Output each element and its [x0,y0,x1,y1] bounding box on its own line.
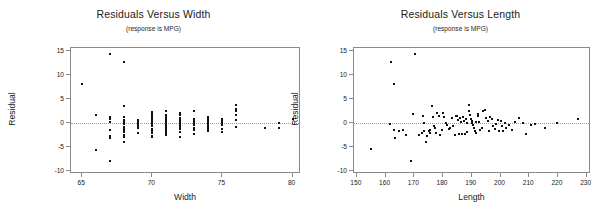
data-point [418,134,420,136]
data-point [429,132,431,134]
data-point [370,148,372,150]
data-point [492,125,494,127]
data-point [264,127,266,129]
x-axis-tick-label: 75 [218,179,225,186]
data-point [508,124,510,126]
data-point [410,160,412,162]
data-point [235,126,237,128]
y-axis-tick [66,50,70,51]
data-point [458,133,460,135]
x-axis-tick [81,173,82,177]
data-point [488,130,490,132]
data-point [423,130,425,132]
data-point [137,132,139,134]
chart-subtitle: (response is MPG) [0,25,307,32]
data-point [423,122,425,124]
data-point [465,118,467,120]
y-axis-tick-label: 5 [42,94,64,101]
y-axis-tick [349,170,353,171]
residual-plots-figure: Residuals Versus Width (response is MPG)… [0,0,614,218]
data-point [393,129,395,131]
data-point [443,116,445,118]
data-point [468,104,470,106]
data-point [466,122,468,124]
y-axis-tick [66,74,70,75]
y-axis-tick [349,50,353,51]
data-point [390,61,392,63]
data-point [278,127,280,129]
x-axis-tick-label: 190 [465,179,476,186]
data-point [432,116,434,118]
data-point [436,112,438,114]
x-axis-tick-label: 180 [437,179,448,186]
x-axis-tick-label: 150 [350,179,361,186]
y-axis-tick-label: 15 [325,46,347,53]
y-axis-tick [349,98,353,99]
data-point [221,131,223,133]
data-point [438,115,440,117]
data-point [109,137,111,139]
data-point [221,128,223,130]
plot-area [70,47,300,173]
data-point [402,129,404,131]
data-point [497,119,499,121]
data-point [462,116,464,118]
plot-area [353,47,590,173]
data-point [525,133,527,135]
data-point [165,134,167,136]
data-point [494,128,496,130]
y-axis-tick [349,146,353,147]
data-point [449,127,451,129]
data-point [235,119,237,121]
x-axis-tick [221,173,222,177]
data-point [534,123,536,125]
data-point [530,124,532,126]
data-point [491,118,493,120]
data-point [504,122,506,124]
data-point [477,115,479,117]
data-point [459,117,461,119]
y-axis-tick [66,122,70,123]
chart-panel-residuals-versus-length: Residuals Versus Length (response is MPG… [307,0,614,218]
data-point [405,134,407,136]
zero-reference-line [71,123,299,124]
data-point [518,117,520,119]
data-point [475,132,477,134]
data-point [469,114,471,116]
data-point [109,129,111,131]
x-axis-tick-label: 70 [148,179,155,186]
x-axis-tick-label: 210 [523,179,534,186]
data-point [446,124,448,126]
data-point [544,127,546,129]
data-point [95,149,97,151]
y-axis-tick-label: 0 [325,119,347,126]
data-point [193,129,195,131]
data-point [193,110,195,112]
y-axis-tick-label: 5 [325,94,347,101]
y-axis-tick-label: 15 [42,46,64,53]
y-axis-tick-label: -5 [42,143,64,150]
data-point [468,110,470,112]
data-point [412,113,414,115]
x-axis-tick [557,173,558,177]
data-point [398,130,400,132]
data-point [221,124,223,126]
data-point [165,110,167,112]
data-point [151,136,153,138]
data-point [464,133,466,135]
data-point [502,130,504,132]
x-axis-tick-label: 220 [551,179,562,186]
data-point [461,133,463,135]
chart-title: Residuals Versus Length [307,8,614,20]
chart-subtitle: (response is MPG) [307,25,614,32]
data-point [235,104,237,106]
y-axis-tick [66,146,70,147]
data-point [123,105,125,107]
x-axis-tick [442,173,443,177]
data-point [421,132,423,134]
x-axis-tick [500,173,501,177]
data-point [522,122,524,124]
y-axis-tick [349,122,353,123]
data-point [425,141,427,143]
data-point [414,53,416,55]
